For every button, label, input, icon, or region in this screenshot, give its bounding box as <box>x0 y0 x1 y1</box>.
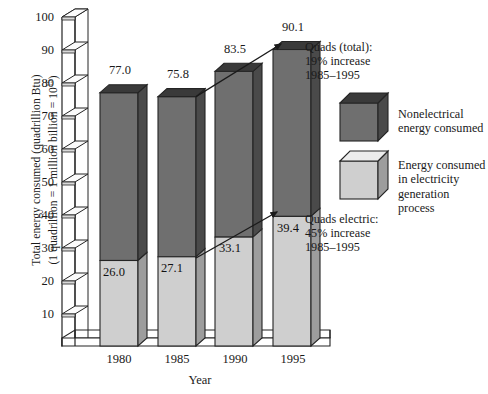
bar-1995 <box>273 42 320 347</box>
bar-total-label-1985: 75.8 <box>154 67 202 82</box>
bar-total-label-1990: 83.5 <box>211 42 259 57</box>
y-axis-ladder <box>62 9 88 346</box>
legend-label-electricity: Energy consumed in electricity generatio… <box>398 158 488 216</box>
bar-electric-label-1995: 39.4 <box>277 221 299 236</box>
bar-total-label-1995: 90.1 <box>269 20 317 35</box>
bar-electric-label-1990: 33.1 <box>219 241 241 256</box>
x-tick-1995: 1995 <box>269 352 317 367</box>
annotation-quads-total: Quads (total): 19% increase 1985–1995 <box>305 40 465 83</box>
bar-1980 <box>100 85 147 346</box>
x-tick-1985: 1985 <box>153 352 201 367</box>
legend-swatch-electricity <box>340 151 388 199</box>
x-tick-1980: 1980 <box>95 352 143 367</box>
x-axis-title: Year <box>0 373 400 388</box>
bar-1990 <box>215 63 262 346</box>
legend-swatch-nonelectrical <box>340 93 388 141</box>
annotation-quads-electric: Quads electric: 45% increase 1985–1995 <box>305 212 465 255</box>
bar-1985 <box>158 89 205 346</box>
bar-electric-label-1985: 27.1 <box>161 261 183 276</box>
bar-electric-label-1980: 26.0 <box>103 265 125 280</box>
bar-total-label-1980: 77.0 <box>96 63 144 78</box>
x-tick-1990: 1990 <box>211 352 259 367</box>
legend-label-nonelectrical: Nonelectrical energy consumed <box>398 107 488 136</box>
